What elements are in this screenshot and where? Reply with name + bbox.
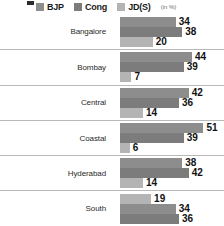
bar-bjp — [120, 88, 189, 98]
legend-swatch-cong — [74, 3, 82, 11]
bar-row: 51 — [120, 123, 224, 133]
bar-value: 6 — [133, 143, 139, 153]
legend-swatch-bjp — [36, 3, 44, 11]
bar-group: Bombay44397 — [0, 49, 224, 84]
group-bars: 193436 — [120, 191, 224, 225]
bar-cong — [120, 214, 179, 224]
chart-legend: BJP Cong JD(S) (in %) — [0, 0, 224, 14]
bar-row: 14 — [120, 108, 224, 118]
bar-jds — [120, 72, 131, 82]
bar-group: South193436 — [0, 190, 224, 225]
bar-value: 7 — [134, 72, 140, 82]
bar-row: 6 — [120, 143, 224, 153]
bar-row: 14 — [120, 178, 224, 188]
bar-group: Coastal51396 — [0, 120, 224, 155]
grouped-bar-chart: BJP Cong JD(S) (in %) Bangalore343820Bom… — [0, 0, 224, 226]
bar-value: 39 — [187, 133, 198, 143]
bar-value: 42 — [192, 88, 203, 98]
bar-value: 36 — [182, 98, 193, 108]
legend-item-cong: Cong — [74, 3, 107, 12]
legend-item-jds: JD(S) — [117, 3, 151, 12]
bar-row: 36 — [120, 214, 224, 224]
bar-row: 36 — [120, 98, 224, 108]
bar-value: 42 — [192, 168, 203, 178]
bar-group: Bangalore343820 — [0, 14, 224, 49]
bar-value: 39 — [187, 62, 198, 72]
bar-group: Central423614 — [0, 85, 224, 120]
bar-row: 38 — [120, 27, 224, 37]
group-label-hyderabad: Hyderabad — [0, 156, 112, 190]
bar-bjp — [120, 17, 176, 27]
bar-row: 7 — [120, 72, 224, 82]
bar-value: 14 — [146, 178, 157, 188]
bar-value: 14 — [146, 108, 157, 118]
group-bars: 51396 — [120, 121, 224, 155]
bar-jds — [120, 108, 143, 118]
bar-value: 20 — [156, 37, 167, 47]
group-label-central: Central — [0, 86, 112, 120]
bar-value: 36 — [182, 214, 193, 224]
group-bars: 423614 — [120, 86, 224, 120]
bar-row: 20 — [120, 37, 224, 47]
legend-item-bjp: BJP — [36, 3, 64, 12]
bar-jds — [120, 143, 130, 153]
bar-bjp — [120, 52, 192, 62]
bar-row: 34 — [120, 204, 224, 214]
bar-group: Hyderabad384214 — [0, 155, 224, 190]
legend-label-cong: Cong — [85, 3, 107, 12]
group-label-bangalore: Bangalore — [0, 14, 112, 49]
bar-cong — [120, 133, 184, 143]
legend-label-bjp: BJP — [47, 3, 64, 12]
group-bars: 384214 — [120, 156, 224, 190]
bar-jds — [120, 178, 143, 188]
bar-bjp — [120, 158, 182, 168]
group-bars: 343820 — [120, 14, 224, 49]
bar-cong — [120, 27, 182, 37]
legend-swatch-jds — [117, 3, 125, 11]
bar-row: 44 — [120, 52, 224, 62]
group-label-coastal: Coastal — [0, 121, 112, 155]
bar-bjp — [120, 204, 176, 214]
bar-value: 38 — [185, 27, 196, 37]
bar-row: 19 — [120, 194, 224, 204]
bar-row: 34 — [120, 17, 224, 27]
bar-jds — [120, 37, 153, 47]
group-label-south: South — [0, 191, 112, 225]
bar-cong — [120, 62, 184, 72]
bar-jds — [120, 194, 151, 204]
group-label-bombay: Bombay — [0, 50, 112, 84]
bar-row: 42 — [120, 168, 224, 178]
legend-unit: (in %) — [161, 4, 177, 10]
bar-value: 19 — [154, 194, 165, 204]
chart-groups: Bangalore343820Bombay44397Central423614C… — [0, 14, 224, 226]
bar-value: 51 — [206, 123, 217, 133]
legend-label-jds: JD(S) — [128, 3, 151, 12]
bar-row: 38 — [120, 158, 224, 168]
bar-row: 42 — [120, 88, 224, 98]
group-bars: 44397 — [120, 50, 224, 84]
